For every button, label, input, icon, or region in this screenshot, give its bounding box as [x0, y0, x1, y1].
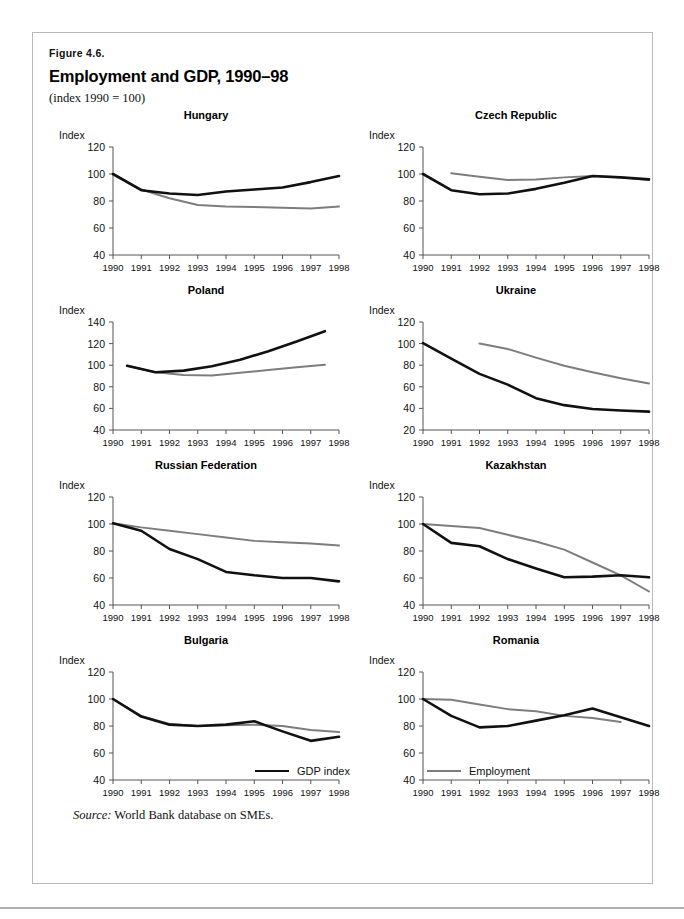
svg-text:1990: 1990	[102, 787, 123, 798]
svg-text:100: 100	[397, 518, 415, 530]
svg-text:1995: 1995	[244, 787, 265, 798]
chart-plot: 4060801001201990199119921993199419951996…	[361, 475, 671, 631]
svg-text:60: 60	[93, 222, 105, 234]
svg-text:1994: 1994	[215, 787, 236, 798]
svg-text:1996: 1996	[272, 437, 293, 448]
svg-text:1994: 1994	[525, 437, 546, 448]
svg-text:1995: 1995	[244, 262, 265, 273]
svg-text:1997: 1997	[610, 437, 631, 448]
svg-text:60: 60	[403, 381, 415, 393]
svg-text:1995: 1995	[244, 612, 265, 623]
chart-title: Bulgaria	[51, 634, 361, 646]
svg-text:120: 120	[397, 141, 415, 153]
chart-title: Russian Federation	[51, 459, 361, 471]
svg-text:1990: 1990	[412, 787, 433, 798]
legend-item-gdp: GDP index	[255, 765, 350, 777]
svg-text:120: 120	[397, 316, 415, 328]
svg-text:1996: 1996	[272, 787, 293, 798]
chart-panel-kazakhstan: KazakhstanIndex4060801001201990199119921…	[361, 459, 671, 634]
svg-text:1993: 1993	[497, 262, 518, 273]
chart-panel-czech-republic: Czech RepublicIndex406080100120199019911…	[361, 109, 671, 284]
series-line-gdp-index	[423, 524, 649, 577]
svg-text:1990: 1990	[102, 437, 123, 448]
series-line-gdp-index	[113, 699, 339, 741]
svg-text:1990: 1990	[412, 262, 433, 273]
source-text: World Bank database on SMEs.	[114, 808, 273, 822]
chart-title: Kazakhstan	[361, 459, 671, 471]
svg-text:1997: 1997	[610, 787, 631, 798]
legend-item-employment: Employment	[427, 765, 530, 777]
svg-text:1998: 1998	[638, 787, 659, 798]
svg-text:60: 60	[93, 402, 105, 414]
figure-subtitle: (index 1990 = 100)	[49, 91, 609, 106]
svg-text:1992: 1992	[159, 787, 180, 798]
svg-text:1997: 1997	[300, 612, 321, 623]
series-line-gdp-index	[113, 174, 339, 195]
chart-plot: 4060801001201401990199119921993199419951…	[51, 300, 361, 456]
svg-text:80: 80	[403, 359, 415, 371]
chart-title: Ukraine	[361, 284, 671, 296]
svg-text:1994: 1994	[215, 262, 236, 273]
series-line-gdp-index	[423, 699, 649, 727]
svg-text:40: 40	[403, 249, 415, 261]
svg-text:1990: 1990	[102, 262, 123, 273]
series-line-employment	[127, 365, 325, 376]
svg-text:60: 60	[93, 572, 105, 584]
svg-text:80: 80	[93, 381, 105, 393]
svg-text:80: 80	[93, 720, 105, 732]
svg-text:1995: 1995	[554, 787, 575, 798]
svg-text:1991: 1991	[131, 612, 152, 623]
svg-text:40: 40	[403, 402, 415, 414]
svg-text:1993: 1993	[497, 437, 518, 448]
chart-panel-hungary: HungaryIndex4060801001201990199119921993…	[51, 109, 361, 284]
chart-plot: 4060801001201990199119921993199419951996…	[51, 125, 361, 281]
svg-text:1990: 1990	[412, 612, 433, 623]
svg-text:1993: 1993	[187, 612, 208, 623]
chart-plot: 4060801001201990199119921993199419951996…	[51, 475, 361, 631]
svg-text:100: 100	[397, 168, 415, 180]
figure-number: Figure 4.6.	[49, 47, 609, 59]
svg-text:100: 100	[397, 693, 415, 705]
svg-text:1996: 1996	[582, 612, 603, 623]
svg-text:1996: 1996	[272, 262, 293, 273]
series-line-gdp-index	[127, 331, 325, 372]
chart-panel-russian-federation: Russian FederationIndex40608010012019901…	[51, 459, 361, 634]
svg-text:60: 60	[403, 572, 415, 584]
chart-panel-ukraine: UkraineIndex2040608010012019901991199219…	[361, 284, 671, 459]
svg-text:60: 60	[93, 747, 105, 759]
svg-text:1991: 1991	[441, 437, 462, 448]
series-line-employment	[480, 344, 650, 384]
svg-text:120: 120	[87, 491, 105, 503]
svg-text:60: 60	[403, 222, 415, 234]
svg-text:1994: 1994	[215, 612, 236, 623]
svg-text:1995: 1995	[554, 437, 575, 448]
chart-plot: 4060801001201990199119921993199419951996…	[361, 125, 671, 281]
bottom-rule	[0, 907, 684, 909]
svg-text:1998: 1998	[328, 262, 349, 273]
svg-text:1997: 1997	[300, 787, 321, 798]
svg-text:1992: 1992	[159, 437, 180, 448]
svg-text:1991: 1991	[441, 612, 462, 623]
svg-text:1997: 1997	[610, 262, 631, 273]
svg-text:20: 20	[403, 424, 415, 436]
svg-text:120: 120	[397, 491, 415, 503]
svg-text:1990: 1990	[102, 612, 123, 623]
svg-text:40: 40	[93, 424, 105, 436]
svg-text:1998: 1998	[328, 612, 349, 623]
svg-text:1994: 1994	[525, 612, 546, 623]
svg-text:100: 100	[87, 518, 105, 530]
svg-text:1992: 1992	[469, 262, 490, 273]
svg-text:1993: 1993	[187, 437, 208, 448]
series-line-gdp-index	[423, 174, 649, 194]
svg-text:120: 120	[397, 666, 415, 678]
svg-text:1998: 1998	[328, 787, 349, 798]
svg-text:1997: 1997	[610, 612, 631, 623]
svg-text:100: 100	[87, 693, 105, 705]
svg-text:1997: 1997	[300, 437, 321, 448]
chart-title: Hungary	[51, 109, 361, 121]
svg-text:1993: 1993	[187, 262, 208, 273]
svg-text:1993: 1993	[187, 787, 208, 798]
svg-text:1996: 1996	[582, 437, 603, 448]
chart-panel-poland: PolandIndex40608010012014019901991199219…	[51, 284, 361, 459]
chart-plot: 2040608010012019901991199219931994199519…	[361, 300, 671, 456]
